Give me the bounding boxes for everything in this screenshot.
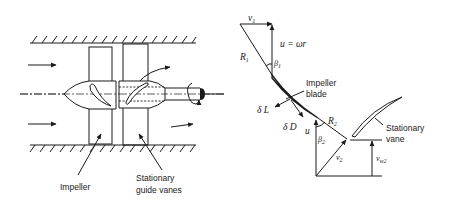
- delta-L-label: δ L: [257, 105, 269, 115]
- u2-label: u: [305, 126, 310, 136]
- stationary-vane-label-line2: vane: [386, 134, 405, 144]
- delta-D-label: δ D: [283, 122, 297, 132]
- impeller-blade-label-line1: Impeller: [306, 78, 336, 88]
- delta-L-arrow: [275, 99, 290, 107]
- u-equals-omega-r-label: u = ωr: [280, 39, 307, 49]
- guide-vanes-label-line2: guide vanes: [136, 185, 182, 195]
- bottom-pipe-wall: [30, 145, 196, 152]
- v1-label: v1: [248, 13, 255, 24]
- rotation-arrow-icon: [188, 83, 200, 104]
- v2-label: v2: [336, 153, 343, 163]
- pump-cross-section: Impeller Stationary guide vanes: [20, 36, 224, 195]
- outflow-arrow-icon: [171, 124, 193, 127]
- R1-vector: [240, 24, 272, 75]
- guide-vanes-label-line1: Stationary: [136, 173, 175, 183]
- impeller-label: Impeller: [60, 182, 90, 192]
- axial-flow-pump-diagram: Impeller Stationary guide vanes v1 u = ω…: [0, 0, 454, 203]
- stationary-vane-leader: [375, 118, 383, 125]
- top-pipe-wall: [30, 36, 196, 43]
- velocity-triangles: v1 u = ωr R1 β1 Impeller blade δ L δ D u…: [239, 13, 425, 176]
- beta1-label: β1: [273, 59, 281, 69]
- vw2-label: vw2: [376, 154, 387, 164]
- beta2-label: β2: [317, 135, 325, 145]
- beta1-arc: [266, 64, 272, 66]
- impeller-blade-label-line2: blade: [306, 89, 327, 99]
- R1-label: R1: [239, 52, 249, 63]
- beta2-arc: [316, 122, 325, 127]
- R2-label: R2: [327, 116, 337, 127]
- guide-vane-leader-line: [139, 134, 162, 170]
- stationary-vane-label-line1: Stationary: [386, 123, 425, 133]
